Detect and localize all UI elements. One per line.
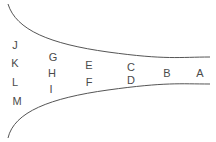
label-m: M — [12, 96, 21, 107]
label-f: F — [86, 77, 93, 88]
label-j: J — [12, 40, 18, 51]
label-a: A — [196, 68, 203, 79]
label-l: L — [12, 77, 18, 88]
label-c: C — [127, 62, 135, 73]
label-k: K — [11, 58, 18, 69]
label-i: I — [49, 84, 52, 95]
label-b: B — [163, 68, 170, 79]
label-g: G — [49, 52, 58, 63]
label-e: E — [85, 60, 92, 71]
funnel-diagram — [0, 0, 216, 142]
label-h: H — [48, 68, 56, 79]
funnel-bottom-curve — [8, 84, 210, 138]
funnel-top-curve — [8, 4, 210, 58]
label-d: D — [127, 75, 135, 86]
